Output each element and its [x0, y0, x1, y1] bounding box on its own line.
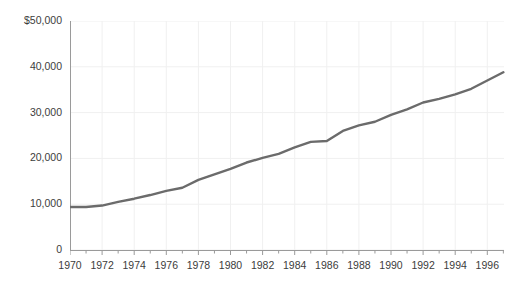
x-tick-label: 1990 [379, 259, 402, 271]
y-tick-label: $50,000 [24, 15, 62, 26]
x-tick-label: 1984 [283, 259, 306, 271]
x-tick-label: 1996 [476, 259, 499, 271]
x-tick-label: 1982 [251, 259, 274, 271]
x-tick-label: 1972 [90, 259, 113, 271]
y-tick-label: 10,000 [30, 198, 62, 209]
horizontal-gridlines [70, 21, 504, 250]
plot-area [70, 21, 500, 250]
y-tick-label: 0 [56, 244, 62, 255]
x-tick-label: 1976 [155, 259, 178, 271]
x-tick-label: 1980 [219, 259, 242, 271]
x-tick-label: 1992 [411, 259, 434, 271]
data-series-line [70, 72, 503, 207]
vertical-gridlines [70, 21, 487, 250]
y-tick-label: 30,000 [30, 107, 62, 118]
x-tick-label: 1970 [58, 259, 81, 271]
y-tick-label: 40,000 [30, 61, 62, 72]
x-tick-label: 1974 [123, 259, 146, 271]
x-tick-label: 1986 [315, 259, 338, 271]
line-chart: $50,00040,00030,00020,00010,0000 1970197… [0, 0, 513, 285]
x-tick-label: 1994 [444, 259, 467, 271]
x-axis-labels: 1970197219741976197819801982198419861988… [0, 259, 513, 275]
x-tick-label: 1978 [187, 259, 210, 271]
x-tick-label: 1988 [347, 259, 370, 271]
axis-lines [70, 21, 504, 251]
y-axis-labels: $50,00040,00030,00020,00010,0000 [0, 0, 62, 285]
chart-svg [70, 21, 513, 285]
y-tick-label: 20,000 [30, 152, 62, 163]
